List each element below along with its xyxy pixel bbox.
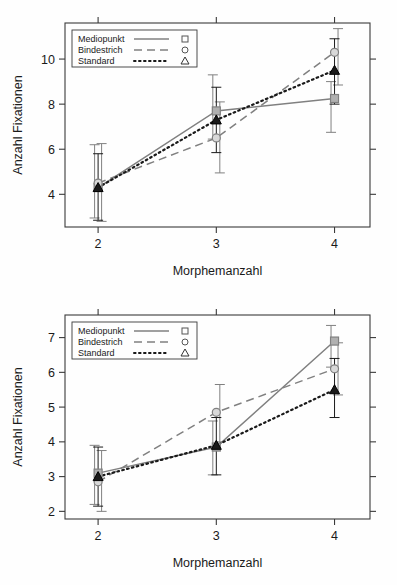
legend-label-bottom-1: Bindestrich — [78, 337, 123, 347]
y-axis-title-bottom: Anzahl Fixationen — [11, 367, 25, 466]
chart-svg-bottom: 234567234MorphemanzahlAnzahl FixationenM… — [0, 292, 397, 584]
error-bars-bottom-bindestrich — [97, 343, 343, 512]
legend-marker-triangle-icon-top — [181, 57, 189, 64]
y-tick-label-bottom-0: 2 — [48, 505, 55, 519]
x-tick-label-bottom-1: 3 — [213, 529, 220, 543]
legend-marker-square-icon-top — [182, 36, 188, 42]
legend-label-top-1: Bindestrich — [78, 45, 123, 55]
y-tick-label-bottom-2: 4 — [48, 435, 55, 449]
figure-container: 46810234MorphemanzahlAnzahl FixationenMe… — [0, 0, 397, 585]
y-tick-label-top-2: 8 — [48, 98, 55, 112]
y-tick-label-bottom-3: 5 — [48, 401, 55, 415]
legend-marker-square-icon-bottom — [182, 328, 188, 334]
legend-label-top-2: Standard — [78, 56, 115, 66]
y-tick-label-bottom-5: 7 — [48, 331, 55, 345]
legend-label-bottom-2: Standard — [78, 348, 115, 358]
legend-marker-triangle-icon-bottom — [181, 349, 189, 356]
error-bars-bottom-standard — [93, 358, 339, 506]
y-tick-label-top-3: 10 — [41, 53, 55, 67]
error-bars-top-standard — [93, 39, 339, 220]
x-tick-label-top-1: 3 — [213, 237, 220, 251]
chart-panel-top: 46810234MorphemanzahlAnzahl FixationenMe… — [0, 0, 397, 292]
y-tick-label-top-1: 6 — [48, 143, 55, 157]
y-tick-label-bottom-4: 6 — [48, 366, 55, 380]
x-tick-label-top-0: 2 — [95, 237, 102, 251]
x-axis-title-top: Morphemanzahl — [173, 264, 263, 278]
chart-svg-top: 46810234MorphemanzahlAnzahl FixationenMe… — [0, 0, 397, 292]
legend-marker-circle-icon-top — [182, 47, 188, 53]
x-axis-title-bottom: Morphemanzahl — [173, 556, 263, 570]
error-bars-top-bindestrich — [97, 29, 343, 222]
legend-label-top-0: Mediopunkt — [78, 34, 125, 44]
chart-panel-bottom: 234567234MorphemanzahlAnzahl FixationenM… — [0, 292, 397, 584]
x-tick-label-top-2: 4 — [331, 237, 338, 251]
x-tick-label-bottom-0: 2 — [95, 529, 102, 543]
x-tick-label-bottom-2: 4 — [331, 529, 338, 543]
y-tick-label-top-0: 4 — [48, 188, 55, 202]
y-axis-title-top: Anzahl Fixationen — [11, 75, 25, 174]
legend-label-bottom-0: Mediopunkt — [78, 326, 125, 336]
error-bars-top-mediopunkt — [90, 75, 336, 218]
legend-marker-circle-icon-bottom — [182, 339, 188, 345]
y-tick-label-bottom-1: 3 — [48, 470, 55, 484]
